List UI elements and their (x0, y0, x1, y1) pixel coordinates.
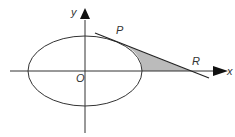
x-axis-label: x (226, 65, 233, 77)
origin-label: O (76, 72, 85, 84)
y-axis-label: y (70, 6, 78, 18)
y-axis-arrow-icon (80, 8, 90, 19)
x-axis-arrow-icon (213, 66, 228, 76)
ellipse-tangent-figure: y x O P R (0, 0, 235, 137)
point-r-label: R (192, 55, 200, 67)
point-p-label: P (116, 24, 124, 36)
